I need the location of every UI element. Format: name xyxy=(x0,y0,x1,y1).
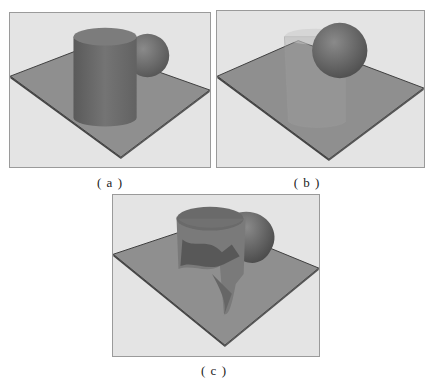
caption-a: ( a ) xyxy=(80,175,140,191)
caption-b: ( b ) xyxy=(277,175,337,191)
scene-c-image xyxy=(113,195,319,356)
cylinder xyxy=(73,37,136,127)
panel-a xyxy=(9,12,211,168)
panel-b xyxy=(216,10,425,168)
panel-c xyxy=(112,194,320,357)
caption-c: ( c ) xyxy=(184,363,244,379)
scene-a-image xyxy=(10,13,210,167)
sphere xyxy=(312,23,367,78)
cylinder-top xyxy=(73,28,136,46)
scene-b-image xyxy=(217,11,424,167)
